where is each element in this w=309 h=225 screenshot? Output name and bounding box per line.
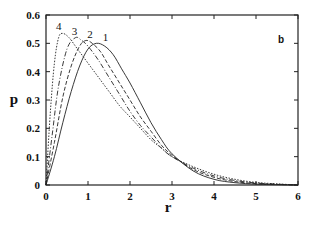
- x-axis-label: r: [165, 199, 172, 215]
- y-tick-label: 0.2: [26, 122, 40, 134]
- plot-frame: [46, 15, 298, 185]
- y-tick-label: 0.4: [26, 66, 40, 78]
- y-tick-labels: 00.10.20.30.40.50.6: [26, 9, 40, 191]
- x-tick-label: 2: [127, 190, 133, 202]
- x-tick-label: 1: [85, 190, 91, 202]
- curve-3: [46, 37, 298, 185]
- y-tick-label: 0: [35, 179, 41, 191]
- x-tick-label: 5: [253, 190, 259, 202]
- curve-labels: 1234: [56, 20, 108, 43]
- x-tick-labels: 0123456: [43, 190, 301, 202]
- x-tick-label: 4: [211, 190, 217, 202]
- y-tick-label: 0.1: [26, 151, 40, 163]
- x-tick-label: 6: [295, 190, 301, 202]
- chart: 0123456 00.10.20.30.40.50.6 1234 r p b: [0, 0, 309, 225]
- y-axis-label: p: [10, 91, 18, 107]
- curve-label-1: 1: [103, 31, 109, 43]
- y-tick-label: 0.5: [26, 37, 40, 49]
- curve-label-2: 2: [87, 28, 93, 40]
- curve-1: [46, 43, 298, 185]
- x-tick-label: 0: [43, 190, 49, 202]
- curves: [46, 33, 298, 185]
- y-tick-label: 0.6: [26, 9, 40, 21]
- curve-label-3: 3: [72, 25, 78, 37]
- curve-label-4: 4: [56, 20, 62, 32]
- curve-2: [46, 40, 298, 185]
- axis-ticks: [46, 15, 298, 185]
- y-tick-label: 0.3: [26, 94, 40, 106]
- panel-label: b: [278, 34, 284, 45]
